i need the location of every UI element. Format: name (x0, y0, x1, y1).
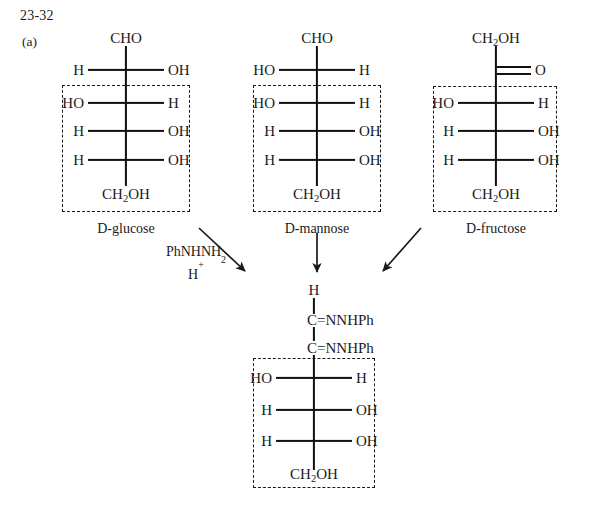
reagent-text: PhNHNH (166, 244, 221, 259)
group-bottom-sub: 2 (311, 473, 316, 484)
reagent-text: H (188, 267, 198, 282)
substituent-left: H (73, 63, 84, 78)
arrow-fructose-to-osazone (383, 228, 421, 271)
rung-bond (458, 102, 534, 104)
substituent-right: OH (359, 153, 381, 168)
substituent-left: HO (253, 63, 275, 78)
rung-bond (458, 130, 534, 132)
problem-number: 23-32 (20, 8, 54, 24)
group-bottom-d-glucose: CH2OH (102, 187, 150, 202)
group-bottom-d-fructose: CH2OH (472, 187, 520, 202)
rung-bond (458, 159, 534, 161)
substituent-left: HO (432, 96, 454, 111)
substituent-right: OH (538, 153, 560, 168)
caption-d-glucose: D-glucose (97, 221, 155, 237)
rung-bond (276, 409, 352, 411)
caption-d-fructose: D-fructose (466, 221, 526, 237)
group-bottom-tail: OH (128, 186, 150, 202)
group-bottom-text: CH (472, 186, 493, 202)
caption-d-mannose: D-mannose (285, 221, 350, 237)
substituent-left: HO (62, 96, 84, 111)
substituent-right: H (359, 96, 370, 111)
hydrazone-group-2: C=NNHPh (307, 341, 374, 356)
rung-bond (276, 377, 352, 379)
rung-bond (279, 69, 355, 71)
carbonyl-double-bond (497, 66, 531, 68)
backbone-bond (313, 355, 315, 470)
diagram-canvas: 23-32 (a) CHO H OH HO H H OH H OH CH2OH … (0, 0, 592, 513)
substituent-left: HO (253, 96, 275, 111)
substituent-right: H (359, 63, 370, 78)
hydrazone-group-1: C=NNHPh (307, 313, 374, 328)
group-bottom-tail: OH (319, 186, 341, 202)
rung-bond (88, 102, 164, 104)
substituent-left: H (264, 153, 275, 168)
group-bottom-text: CH (290, 466, 311, 482)
substituent-right: H (538, 96, 549, 111)
group-top-osazone: H (309, 283, 320, 298)
substituent-left: H (443, 153, 454, 168)
substituent-left: H (261, 434, 272, 449)
reagent-line-2: H+ (166, 263, 226, 285)
rung-bond (88, 130, 164, 132)
group-top-tail: OH (498, 30, 520, 46)
group-top-text: CH (472, 30, 493, 46)
reagent-sup: + (198, 259, 204, 270)
group-top-d-fructose: CH2OH (472, 31, 520, 46)
rung-bond (88, 69, 164, 71)
group-bottom-tail: OH (316, 466, 338, 482)
rung-bond (276, 440, 352, 442)
carbonyl-double-bond (497, 73, 531, 75)
substituent-right: OH (538, 124, 560, 139)
substituent-right: OH (356, 403, 378, 418)
group-top-d-mannose: CHO (301, 31, 333, 46)
substituent-left: HO (250, 371, 272, 386)
group-bottom-sub: 2 (123, 193, 128, 204)
group-top-d-glucose: CHO (110, 31, 142, 46)
backbone-bond (125, 46, 127, 186)
rung-bond (279, 159, 355, 161)
substituent-right: OH (356, 434, 378, 449)
substituent-right: OH (168, 153, 190, 168)
group-bottom-sub: 2 (314, 193, 319, 204)
substituent-right: OH (168, 124, 190, 139)
substituent-right: H (356, 371, 367, 386)
substituent-left: H (443, 124, 454, 139)
rung-bond (279, 130, 355, 132)
group-bottom-text: CH (102, 186, 123, 202)
substituent-right: OH (168, 63, 190, 78)
reagent-line-1: PhNHNH2 (166, 243, 226, 263)
substituent-left: H (264, 124, 275, 139)
reagent-label: PhNHNH2 H+ (166, 243, 226, 285)
group-top-sub: 2 (493, 37, 498, 48)
substituent-right: OH (359, 124, 381, 139)
substituent-left: H (73, 153, 84, 168)
group-bottom-text: CH (293, 186, 314, 202)
reagent-sub: 2 (221, 254, 226, 265)
part-label: (a) (22, 34, 37, 50)
group-bottom-sub: 2 (493, 193, 498, 204)
group-bottom-tail: OH (498, 186, 520, 202)
substituent-left: H (73, 124, 84, 139)
group-bottom-osazone: CH2OH (290, 467, 338, 482)
rung-bond (279, 102, 355, 104)
carbonyl-oxygen: O (535, 63, 546, 78)
group-bottom-d-mannose: CH2OH (293, 187, 341, 202)
rung-bond (88, 159, 164, 161)
substituent-right: H (168, 96, 179, 111)
substituent-left: H (261, 403, 272, 418)
backbone-bond (316, 46, 318, 186)
